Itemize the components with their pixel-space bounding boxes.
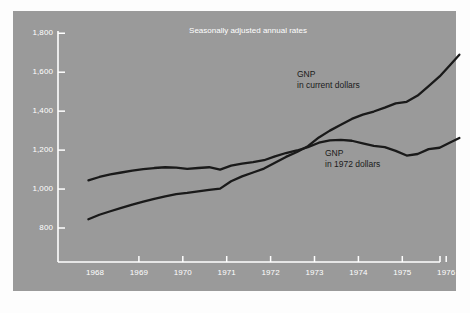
x-axis-tick-label: 1974 — [338, 268, 378, 277]
x-axis-tick-label: 1969 — [119, 268, 159, 277]
axes-group — [58, 31, 446, 262]
x-axis-tick-label: 1972 — [251, 268, 291, 277]
series-label-line-1: GNP — [325, 148, 380, 159]
x-axis-tick-label: 1973 — [295, 268, 335, 277]
x-axis-tick-label: 1968 — [75, 268, 115, 277]
x-axis-tick-label: 1970 — [163, 268, 203, 277]
series-group — [88, 55, 459, 220]
x-axis-tick-label: 1975 — [382, 268, 422, 277]
y-axis-tick-label: 1,400 — [19, 106, 53, 115]
series-label-line-1: GNP — [297, 69, 360, 80]
y-axis-tick-label: 1,000 — [19, 184, 53, 193]
chart-figure: Seasonally adjusted annual rates 8001,00… — [0, 0, 470, 313]
chart-plot-area — [0, 0, 470, 313]
series-label-gnp-1972-dollars: GNP in 1972 dollars — [325, 148, 380, 170]
series-line-gnp-current-dollars — [88, 55, 459, 220]
y-axis-tick-label: 800 — [19, 223, 53, 232]
y-axis-tick-label: 1,800 — [19, 28, 53, 37]
series-label-line-2: in current dollars — [297, 80, 360, 91]
series-label-gnp-current-dollars: GNP in current dollars — [297, 69, 360, 91]
y-axis-tick-label: 1,200 — [19, 145, 53, 154]
x-axis-tick-label: 1971 — [207, 268, 247, 277]
x-axis-tick-label: 1976 — [426, 268, 466, 277]
y-axis-tick-label: 1,600 — [19, 67, 53, 76]
series-line-gnp-1972-dollars — [88, 138, 459, 180]
series-label-line-2: in 1972 dollars — [325, 159, 380, 170]
